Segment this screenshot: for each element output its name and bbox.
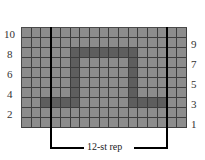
chart-cell (32, 78, 42, 88)
chart-cell (51, 48, 61, 58)
chart-cell (51, 108, 61, 118)
chart-cell (109, 58, 119, 68)
chart-cell (90, 98, 100, 108)
chart-cell (90, 58, 100, 68)
chart-cell (80, 98, 90, 108)
chart-grid (21, 27, 187, 128)
chart-cell (22, 88, 32, 98)
chart-cell (168, 108, 178, 118)
chart-cell (129, 38, 139, 48)
chart-cell (22, 48, 32, 58)
chart-cell (138, 88, 148, 98)
chart-cell (51, 58, 61, 68)
chart-cell (51, 88, 61, 98)
chart-cell (138, 68, 148, 78)
chart-cell (129, 88, 139, 98)
chart-cell (61, 48, 71, 58)
chart-cell (71, 28, 81, 38)
row-label-6: 6 (7, 69, 13, 80)
chart-cell (90, 78, 100, 88)
chart-cell (100, 48, 110, 58)
chart-cell (22, 28, 32, 38)
chart-cell (138, 38, 148, 48)
chart-cell (71, 98, 81, 108)
chart-cell (148, 28, 158, 38)
chart-cell (61, 38, 71, 48)
chart-cell (148, 98, 158, 108)
chart-cell (129, 48, 139, 58)
chart-cell (61, 58, 71, 68)
chart-cell (119, 58, 129, 68)
chart-cell (80, 58, 90, 68)
chart-cell (51, 28, 61, 38)
row-label-5: 5 (191, 79, 197, 90)
chart-cell (138, 58, 148, 68)
chart-cell (61, 68, 71, 78)
chart-cell (148, 108, 158, 118)
chart-cell (51, 118, 61, 128)
chart-cell (100, 28, 110, 38)
row-label-3: 3 (191, 99, 197, 110)
chart-cell (129, 118, 139, 128)
row-label-9: 9 (191, 39, 197, 50)
chart-cell (71, 118, 81, 128)
chart-cell (100, 118, 110, 128)
chart-cell (168, 98, 178, 108)
chart-cell (177, 108, 187, 118)
chart-cell (80, 78, 90, 88)
row-label-2: 2 (7, 109, 13, 120)
chart-cell (80, 28, 90, 38)
chart-cell (100, 108, 110, 118)
chart-cell (177, 38, 187, 48)
chart-cell (100, 38, 110, 48)
chart-cell (109, 78, 119, 88)
chart-cell (138, 118, 148, 128)
chart-cell (168, 38, 178, 48)
chart-cell (61, 108, 71, 118)
chart-cell (138, 28, 148, 38)
chart-cell (168, 118, 178, 128)
chart-cell (22, 38, 32, 48)
chart-cell (148, 38, 158, 48)
chart-cell (148, 58, 158, 68)
chart-cell (71, 108, 81, 118)
chart-cell (22, 58, 32, 68)
chart-cell (32, 48, 42, 58)
row-label-10: 10 (4, 29, 15, 40)
chart-cell (51, 38, 61, 48)
chart-cell (109, 88, 119, 98)
chart-cell (80, 108, 90, 118)
chart-cell (119, 118, 129, 128)
chart-cell (90, 68, 100, 78)
chart-cell (119, 28, 129, 38)
chart-cell (148, 88, 158, 98)
chart-cell (177, 118, 187, 128)
chart-cell (129, 98, 139, 108)
chart-cell (90, 118, 100, 128)
chart-cell (100, 68, 110, 78)
chart-cell (129, 108, 139, 118)
chart-cell (177, 58, 187, 68)
repeat-right-line (166, 27, 168, 149)
chart-cell (129, 68, 139, 78)
chart-cell (80, 48, 90, 58)
chart-cell (71, 38, 81, 48)
chart-cell (100, 98, 110, 108)
chart-cell (138, 108, 148, 118)
chart-cell (138, 78, 148, 88)
chart-cell (32, 88, 42, 98)
chart-cell (32, 28, 42, 38)
chart-cell (51, 78, 61, 88)
repeat-left-line (50, 27, 52, 149)
chart-cell (109, 38, 119, 48)
chart-cell (90, 108, 100, 118)
chart-cell (129, 28, 139, 38)
repeat-label: 12-st rep (87, 141, 122, 153)
chart-cell (61, 28, 71, 38)
chart-cell (90, 48, 100, 58)
chart-cell (80, 118, 90, 128)
chart-cell (71, 68, 81, 78)
chart-cell (71, 48, 81, 58)
chart-cell (119, 48, 129, 58)
row-label-1: 1 (191, 119, 197, 130)
